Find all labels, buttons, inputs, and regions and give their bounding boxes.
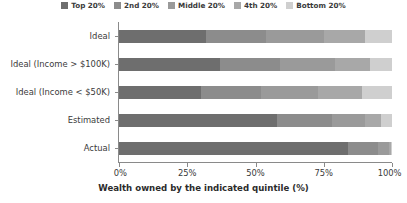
x-axis-tick-label: 75% bbox=[314, 169, 333, 177]
plot-area bbox=[119, 22, 392, 162]
x-axis-tick-mark bbox=[187, 163, 188, 167]
legend-swatch-icon bbox=[61, 2, 68, 9]
x-axis-title: Wealth owned by the indicated quintile (… bbox=[0, 184, 407, 193]
legend-item[interactable]: Bottom 20% bbox=[286, 2, 345, 9]
bar-row[interactable] bbox=[119, 58, 392, 71]
bar-segment[interactable] bbox=[378, 142, 389, 155]
stacked-bar-chart: Top 20%2nd 20%Middle 20%4th 20%Bottom 20… bbox=[0, 0, 407, 203]
bar-segment[interactable] bbox=[365, 30, 392, 43]
y-axis-tick-label: Ideal bbox=[90, 32, 110, 40]
y-axis-tick-label: Ideal (Income > $100K) bbox=[10, 60, 110, 68]
bar-segment[interactable] bbox=[365, 114, 381, 127]
bar-segment[interactable] bbox=[261, 86, 318, 99]
bar-segment[interactable] bbox=[362, 86, 392, 99]
bar-segment[interactable] bbox=[335, 58, 370, 71]
bar-segment[interactable] bbox=[332, 114, 365, 127]
bar-segment[interactable] bbox=[391, 142, 392, 155]
legend-item-label: 4th 20% bbox=[244, 2, 277, 9]
bar-segment[interactable] bbox=[370, 58, 392, 71]
x-axis-tick-mark bbox=[119, 163, 120, 167]
x-axis: 0%25%50%75%100% bbox=[119, 163, 392, 183]
x-axis-tick-label: 100% bbox=[378, 169, 402, 177]
legend-swatch-icon bbox=[286, 2, 293, 9]
bar-segment[interactable] bbox=[324, 30, 365, 43]
bar-row[interactable] bbox=[119, 114, 392, 127]
bar-segment[interactable] bbox=[280, 58, 335, 71]
chart-legend: Top 20%2nd 20%Middle 20%4th 20%Bottom 20… bbox=[0, 2, 407, 9]
legend-item[interactable]: 2nd 20% bbox=[114, 2, 159, 9]
y-axis-tick-label: Ideal (Income < $50K) bbox=[16, 88, 110, 96]
x-axis-tick-mark bbox=[256, 163, 257, 167]
legend-swatch-icon bbox=[234, 2, 241, 9]
y-axis-tick-label: Actual bbox=[84, 144, 110, 152]
bar-row[interactable] bbox=[119, 86, 392, 99]
x-axis-tick-label: 50% bbox=[246, 169, 265, 177]
bar-segment[interactable] bbox=[277, 114, 332, 127]
x-axis-tick-mark bbox=[324, 163, 325, 167]
legend-item-label: Middle 20% bbox=[178, 2, 225, 9]
legend-swatch-icon bbox=[168, 2, 175, 9]
x-axis-tick-label: 0% bbox=[114, 169, 127, 177]
bar-segment[interactable] bbox=[381, 114, 392, 127]
legend-item-label: 2nd 20% bbox=[124, 2, 159, 9]
legend-item-label: Top 20% bbox=[71, 2, 105, 9]
bar-segment[interactable] bbox=[206, 30, 266, 43]
legend-swatch-icon bbox=[114, 2, 121, 9]
bar-row[interactable] bbox=[119, 142, 392, 155]
bar-segment[interactable] bbox=[119, 114, 277, 127]
y-axis: IdealIdeal (Income > $100K)Ideal (Income… bbox=[0, 22, 119, 162]
bar-segment[interactable] bbox=[119, 86, 201, 99]
x-axis-tick-mark bbox=[392, 163, 393, 167]
bar-segment[interactable] bbox=[119, 142, 348, 155]
bar-segment[interactable] bbox=[119, 30, 206, 43]
legend-item[interactable]: 4th 20% bbox=[234, 2, 277, 9]
x-axis-tick-label: 25% bbox=[178, 169, 197, 177]
bar-segment[interactable] bbox=[266, 30, 323, 43]
legend-item[interactable]: Middle 20% bbox=[168, 2, 225, 9]
y-axis-tick-label: Estimated bbox=[68, 116, 110, 124]
bar-segment[interactable] bbox=[318, 86, 362, 99]
bar-segment[interactable] bbox=[201, 86, 261, 99]
bar-segment[interactable] bbox=[119, 58, 220, 71]
legend-item[interactable]: Top 20% bbox=[61, 2, 105, 9]
bar-row[interactable] bbox=[119, 30, 392, 43]
bar-segment[interactable] bbox=[348, 142, 378, 155]
legend-item-label: Bottom 20% bbox=[296, 2, 345, 9]
bar-segment[interactable] bbox=[220, 58, 280, 71]
